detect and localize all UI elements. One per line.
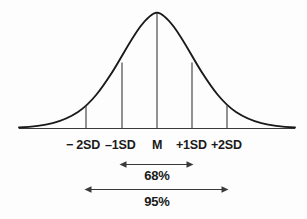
axis-label-minus1sd: –1SD [105,139,135,152]
normal-distribution-figure: − 2SD –1SD M +1SD +2SD 68% 95% [0,0,307,219]
range-arrow-95-head-left [85,186,92,192]
axis-label-plus1sd: +1SD [176,139,207,152]
range-arrow-68-head-right [187,161,194,167]
axis-label-plus2sd: +2SD [211,139,242,152]
range-arrow-68-head-left [120,161,127,167]
range-label-95: 95% [136,195,178,208]
axis-label-mean: M [152,139,162,152]
range-label-68: 68% [136,169,178,182]
range-arrow-95-head-right [222,186,229,192]
axis-label-minus2sd: − 2SD [66,139,100,152]
bell-curve-svg [0,0,307,219]
range-arrow-95 [85,186,229,192]
range-arrow-68 [120,161,194,167]
